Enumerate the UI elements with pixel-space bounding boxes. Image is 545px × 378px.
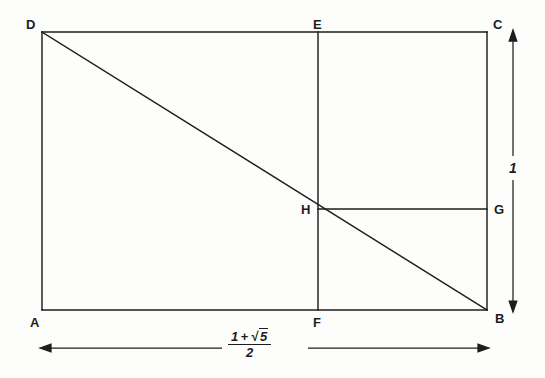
segment-diagonal-DB	[42, 32, 487, 310]
fraction-denominator: 2	[228, 345, 271, 359]
vertex-label-H: H	[301, 203, 311, 216]
figure-canvas	[0, 0, 545, 378]
radicand-value: 5	[259, 328, 269, 344]
square-root-group: √5	[250, 329, 268, 344]
numerator-one: 1	[231, 329, 239, 344]
fraction-numerator: 1+√5	[228, 330, 271, 345]
numerator-plus-sign: +	[239, 329, 251, 344]
height-dimension-label: 1	[509, 161, 517, 175]
vertex-label-C: C	[493, 18, 503, 31]
radical-sign-icon: √	[251, 329, 258, 344]
vertex-label-E: E	[313, 18, 322, 31]
vertex-label-F: F	[313, 316, 321, 329]
golden-ratio-diagram: D E C H G A F B 1 1+√5 2	[0, 0, 545, 378]
vertex-label-A: A	[30, 316, 40, 329]
vertex-label-B: B	[495, 312, 505, 325]
vertex-label-G: G	[494, 203, 504, 216]
width-dimension-label: 1+√5 2	[228, 330, 271, 359]
vertex-label-D: D	[26, 18, 36, 31]
